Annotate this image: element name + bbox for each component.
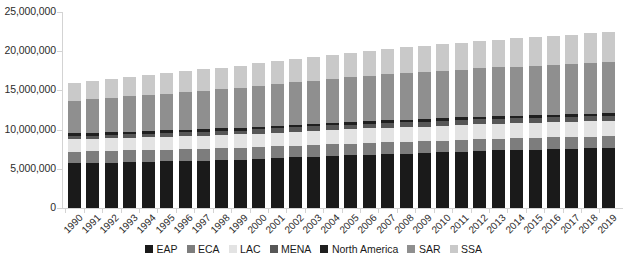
bar-segment-eap	[400, 154, 413, 208]
bar-segment-eap	[252, 159, 265, 208]
bar-segment-ssa	[381, 49, 394, 74]
bar-segment-lac	[344, 129, 357, 144]
x-tick-mark	[415, 209, 416, 213]
bar-segment-eap	[565, 149, 578, 208]
legend-swatch-icon	[320, 245, 328, 253]
bar-segment-eap	[271, 158, 284, 208]
bar-segment-eap	[492, 150, 505, 208]
bar-2004	[326, 55, 339, 208]
bar-segment-lac	[105, 138, 118, 150]
bar-segment-eap	[123, 162, 136, 208]
bar-segment-eap	[142, 162, 155, 208]
bar-segment-eca	[86, 151, 99, 163]
bar-2018	[584, 33, 597, 208]
bar-segment-eap	[105, 163, 118, 208]
bar-segment-lac	[289, 132, 302, 146]
bar-segment-lac	[418, 127, 431, 142]
legend-swatch-icon	[145, 245, 153, 253]
bar-segment-sar	[602, 62, 615, 113]
bar-segment-ssa	[142, 75, 155, 95]
y-tick-mark	[57, 51, 62, 52]
bar-segment-sar	[492, 67, 505, 116]
legend-item-mena[interactable]: MENA	[270, 243, 312, 255]
x-tick-mark	[378, 209, 379, 213]
bar-segment-lac	[307, 131, 320, 145]
y-tick-label: 20,000,000	[4, 44, 56, 56]
bar-segment-eap	[179, 161, 192, 208]
y-tick-label: 15,000,000	[4, 83, 56, 95]
bar-segment-eap	[68, 163, 81, 208]
x-tick-mark	[452, 209, 453, 213]
bar-segment-eca	[602, 136, 615, 148]
bar-segment-ssa	[105, 79, 118, 98]
legend-swatch-icon	[450, 245, 458, 253]
bar-segment-sar	[234, 88, 247, 128]
legend-item-eca[interactable]: ECA	[187, 243, 220, 255]
bar-segment-sar	[289, 82, 302, 124]
legend-item-north-america[interactable]: North America	[320, 243, 398, 255]
bar-1993	[123, 77, 136, 208]
bar-segment-lac	[400, 127, 413, 142]
bar-segment-sar	[326, 79, 339, 123]
bar-segment-lac	[326, 130, 339, 144]
bar-segment-sar	[179, 92, 192, 130]
bar-segment-eca	[307, 145, 320, 157]
bar-2019	[602, 32, 615, 208]
bar-segment-ssa	[307, 57, 320, 81]
bar-segment-eca	[179, 149, 192, 161]
bar-2005	[344, 53, 357, 208]
bar-segment-eca	[381, 142, 394, 154]
bar-segment-eap	[160, 161, 173, 208]
bar-segment-sar	[344, 77, 357, 122]
bar-segment-ssa	[215, 68, 228, 90]
bar-2001	[271, 61, 284, 208]
bar-segment-eap	[547, 149, 560, 208]
bar-segment-sar	[68, 101, 81, 134]
bar-1990	[68, 83, 81, 208]
bar-segment-sar	[252, 86, 265, 127]
bar-segment-eca	[197, 149, 210, 161]
bar-segment-eca	[529, 138, 542, 150]
bar-segment-lac	[142, 137, 155, 150]
x-tick-mark	[194, 209, 195, 213]
bar-segment-eap	[197, 161, 210, 208]
x-tick-mark	[65, 209, 66, 213]
bar-segment-eap	[473, 151, 486, 208]
bar-2010	[436, 44, 449, 208]
bar-segment-eap	[86, 163, 99, 208]
x-tick-mark	[305, 209, 306, 213]
x-tick-mark	[286, 209, 287, 213]
bar-segment-ssa	[344, 53, 357, 78]
y-tick-label: 5,000,000	[10, 162, 56, 174]
legend-item-sar[interactable]: SAR	[407, 243, 440, 255]
x-tick-mark	[84, 209, 85, 213]
bar-segment-lac	[492, 124, 505, 139]
bar-segment-eca	[271, 146, 284, 158]
y-tick-mark	[57, 90, 62, 91]
bar-segment-lac	[381, 128, 394, 143]
bar-segment-ssa	[160, 73, 173, 93]
bar-segment-eca	[584, 137, 597, 149]
chart-legend: EAPECALACMENANorth AmericaSARSSA	[0, 243, 627, 255]
legend-item-ssa[interactable]: SSA	[450, 243, 483, 255]
bar-segment-eca	[142, 150, 155, 162]
x-tick-mark	[250, 209, 251, 213]
bar-segment-eca	[400, 142, 413, 154]
legend-label: LAC	[240, 243, 260, 255]
legend-item-eap[interactable]: EAP	[145, 243, 178, 255]
bar-segment-sar	[565, 64, 578, 114]
bar-1991	[86, 81, 99, 208]
legend-item-lac[interactable]: LAC	[229, 243, 261, 255]
bar-segment-sar	[307, 81, 320, 124]
bar-segment-eap	[602, 148, 615, 208]
x-tick-mark	[121, 209, 122, 213]
bar-segment-ssa	[123, 77, 136, 96]
bar-segment-sar	[142, 95, 155, 131]
bar-segment-lac	[197, 136, 210, 149]
x-tick-mark	[397, 209, 398, 213]
y-tick-label: 10,000,000	[4, 123, 56, 135]
x-tick-mark	[323, 209, 324, 213]
y-tick-label: 0	[50, 201, 56, 213]
bar-segment-eca	[326, 144, 339, 156]
y-tick-mark	[57, 12, 62, 13]
